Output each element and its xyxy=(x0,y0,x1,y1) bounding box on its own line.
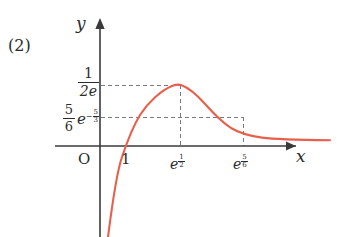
x-axis-label: x xyxy=(296,148,306,165)
arrow-right-icon xyxy=(286,142,296,151)
x-tick-label-one: 1 xyxy=(121,152,131,167)
x-tick-label-e-five-sixths: e56 xyxy=(233,154,248,171)
fraction-denominator: 2e xyxy=(78,83,99,99)
problem-number-label: (2) xyxy=(8,38,31,54)
euler-base: e xyxy=(75,110,86,128)
exponent-fraction: 53 xyxy=(93,109,99,124)
exponent-sign: − xyxy=(86,112,93,121)
figure-container: (2) y x O 1 2e 5 6 e−53 1 e12 e56 xyxy=(0,0,337,237)
fraction-denominator: 6 xyxy=(63,119,75,134)
arrow-up-icon xyxy=(95,18,104,29)
exponent-denominator: 3 xyxy=(93,117,99,124)
exponent-denominator: 2 xyxy=(178,162,184,169)
dashed-guides xyxy=(101,85,243,146)
exponential-term: e−53 xyxy=(75,109,99,127)
y-axis-label: y xyxy=(76,15,86,32)
exponent-fraction: 12 xyxy=(178,154,184,169)
exponent: 56 xyxy=(241,154,247,169)
fraction-five-over-six: 5 6 xyxy=(63,103,75,133)
exponent: −53 xyxy=(86,109,99,124)
fraction-numerator: 1 xyxy=(78,66,99,83)
fraction-one-over-two-e: 1 2e xyxy=(78,66,99,98)
x-tick-label-e-half: e12 xyxy=(170,154,185,171)
y-tick-label-max: 1 2e xyxy=(78,66,99,98)
fraction-numerator: 5 xyxy=(63,103,75,119)
y-tick-label-marked-point: 5 6 e−53 xyxy=(63,103,99,133)
euler-base: e xyxy=(233,156,241,172)
euler-base: e xyxy=(170,156,178,172)
origin-label: O xyxy=(78,152,90,167)
exponent-fraction: 56 xyxy=(241,154,247,169)
exponent: 12 xyxy=(178,154,184,169)
exponent-denominator: 6 xyxy=(241,162,247,169)
graph-canvas xyxy=(0,0,337,237)
